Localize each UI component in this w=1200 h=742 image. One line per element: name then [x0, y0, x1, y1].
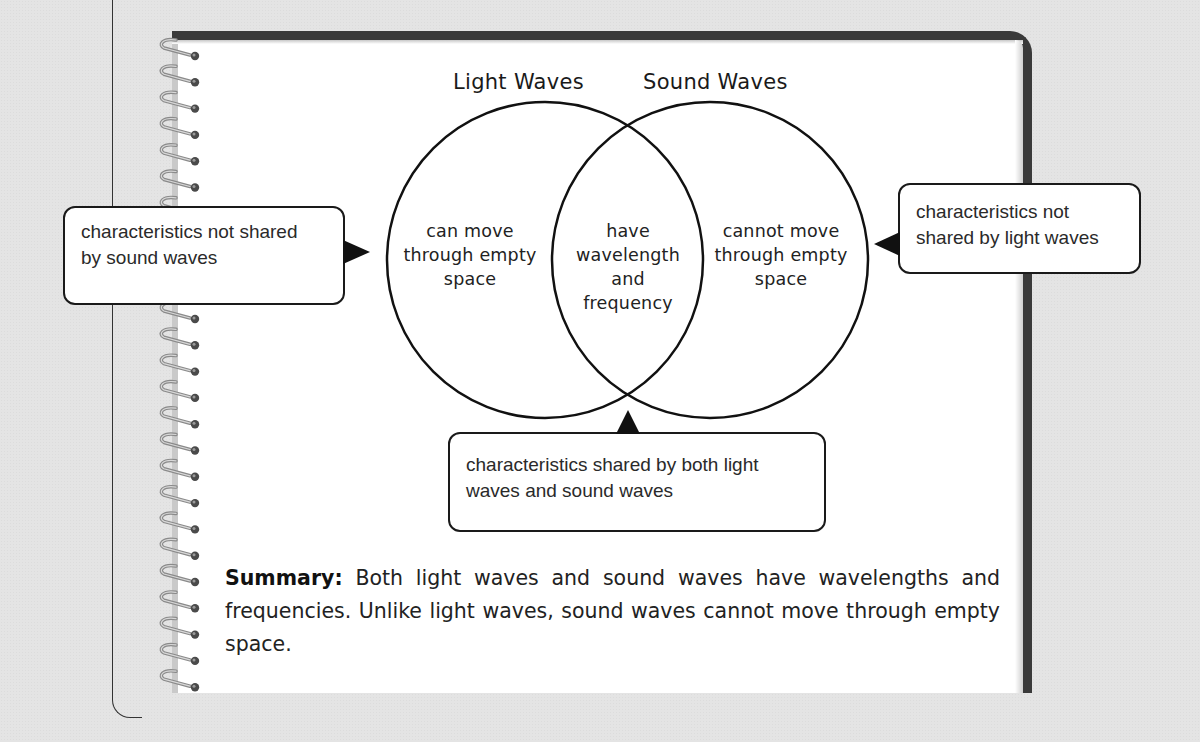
callout-not-shared-by-sound: characteristics not shared by sound wave…	[63, 206, 345, 305]
region-line: through empty	[697, 243, 865, 267]
region-line: through empty	[386, 243, 554, 267]
region-line: wavelength	[566, 243, 690, 267]
arrow-up-icon	[616, 410, 640, 434]
light-only-region: can move through empty space	[386, 219, 554, 291]
callout-line: waves and sound waves	[466, 478, 808, 504]
light-waves-title: Light Waves	[453, 70, 584, 94]
region-line: have	[566, 219, 690, 243]
region-line: cannot move	[697, 219, 865, 243]
region-line: and	[566, 267, 690, 291]
callout-line: by sound waves	[81, 245, 327, 271]
region-line: frequency	[566, 291, 690, 315]
region-line: space	[697, 267, 865, 291]
callout-line: characteristics shared by both light	[466, 452, 808, 478]
sound-only-region: cannot move through empty space	[697, 219, 865, 291]
arrow-right-icon	[343, 240, 370, 264]
intersection-region: have wavelength and frequency	[566, 219, 690, 315]
arrow-left-icon	[874, 232, 900, 256]
region-line: space	[386, 267, 554, 291]
callout-not-shared-by-light: characteristics not shared by light wave…	[898, 183, 1141, 274]
summary-label: Summary:	[225, 566, 343, 590]
summary-paragraph: Summary: Both light waves and sound wave…	[225, 562, 1000, 661]
callout-line: characteristics not shared	[81, 219, 327, 245]
sound-waves-title: Sound Waves	[643, 70, 788, 94]
callout-line: shared by light waves	[916, 225, 1123, 251]
callout-line: characteristics not	[916, 199, 1123, 225]
region-line: can move	[386, 219, 554, 243]
callout-shared-by-both: characteristics shared by both light wav…	[448, 432, 826, 532]
